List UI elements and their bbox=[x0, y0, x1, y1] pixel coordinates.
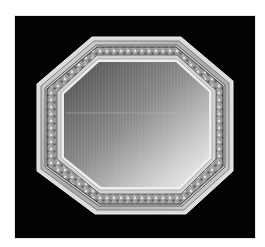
mirror-illustration bbox=[0, 0, 265, 247]
mirror-scanlines bbox=[64, 62, 209, 187]
